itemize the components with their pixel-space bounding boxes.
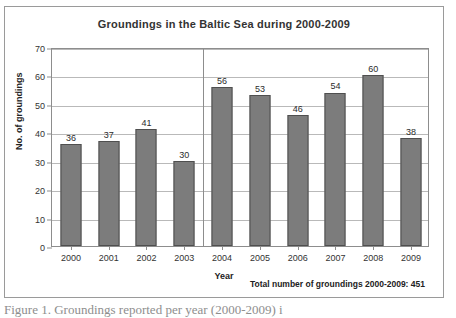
bar-group: 372001 — [90, 49, 128, 246]
x-axis-tick — [335, 246, 336, 250]
bar-value-label: 37 — [104, 130, 114, 140]
x-axis-tick — [184, 246, 185, 250]
bar — [249, 95, 270, 246]
chart-title: Groundings in the Baltic Sea during 2000… — [5, 18, 443, 30]
bar — [60, 144, 81, 246]
bar-group: 302003 — [165, 49, 203, 246]
x-axis-tick — [260, 246, 261, 250]
bar-value-label: 41 — [141, 118, 151, 128]
bar — [401, 138, 422, 246]
bar — [98, 141, 119, 246]
y-axis-label: 30 — [35, 158, 45, 168]
total-groundings-note: Total number of groundings 2000-2009: 45… — [250, 279, 425, 289]
chart-figure-frame: Groundings in the Baltic Sea during 2000… — [4, 6, 444, 298]
y-axis-label: 20 — [35, 186, 45, 196]
bar-group: 602008 — [354, 49, 392, 246]
bar-value-label: 46 — [293, 104, 303, 114]
y-axis-label: 70 — [35, 44, 45, 54]
figure-caption: Figure 1. Groundings reported per year (… — [4, 302, 456, 318]
x-axis-label: 2005 — [250, 253, 270, 263]
bar — [174, 161, 195, 246]
y-axis-label: 60 — [35, 72, 45, 82]
bar-value-label: 56 — [217, 76, 227, 86]
bar — [212, 87, 233, 246]
y-axis-label: 40 — [35, 129, 45, 139]
x-axis-tick — [71, 246, 72, 250]
bar-value-label: 30 — [179, 150, 189, 160]
bar — [287, 115, 308, 246]
x-axis-tick — [146, 246, 147, 250]
x-axis-label: 2004 — [212, 253, 232, 263]
x-axis-tick — [373, 246, 374, 250]
y-axis-label: 50 — [35, 101, 45, 111]
bar — [363, 75, 384, 246]
bars-layer: 3620003720014120023020035620045320054620… — [52, 49, 428, 246]
bar-value-label: 36 — [66, 133, 76, 143]
bar-group: 412002 — [128, 49, 166, 246]
bar-group: 542007 — [317, 49, 355, 246]
bar-group: 462006 — [279, 49, 317, 246]
x-axis-tick — [298, 246, 299, 250]
plot-area: 010203040506070 362000372001412002302003… — [51, 48, 429, 247]
x-axis-label: 2001 — [99, 253, 119, 263]
bar-value-label: 60 — [368, 64, 378, 74]
y-axis-label: 10 — [35, 215, 45, 225]
x-axis-label: 2009 — [401, 253, 421, 263]
x-axis-label: 2007 — [325, 253, 345, 263]
x-axis-label: 2003 — [174, 253, 194, 263]
bar-group: 562004 — [203, 49, 241, 246]
bar-group: 532005 — [241, 49, 279, 246]
bar — [325, 93, 346, 247]
bar-value-label: 54 — [330, 81, 340, 91]
bar-group: 362000 — [52, 49, 90, 246]
x-axis-tick — [109, 246, 110, 250]
period-divider-line — [203, 49, 204, 246]
bar — [136, 129, 157, 246]
x-axis-label: 2002 — [136, 253, 156, 263]
x-axis-tick — [222, 246, 223, 250]
y-axis-tick — [47, 248, 52, 249]
x-axis-label: 2008 — [363, 253, 383, 263]
x-axis-label: 2000 — [61, 253, 81, 263]
bar-value-label: 53 — [255, 84, 265, 94]
x-axis-tick — [411, 246, 412, 250]
y-axis-label: 0 — [40, 243, 45, 253]
bar-value-label: 38 — [406, 127, 416, 137]
x-axis-label: 2006 — [288, 253, 308, 263]
y-axis-title: No. of groundings — [14, 73, 24, 150]
bar-group: 382009 — [392, 49, 430, 246]
